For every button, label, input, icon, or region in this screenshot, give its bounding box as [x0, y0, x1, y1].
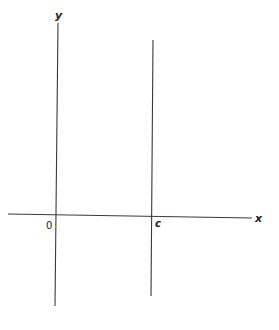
y-axis-label: y: [55, 9, 63, 22]
vertical-line-c: [151, 40, 153, 296]
coordinate-diagram: y x 0 c: [0, 0, 279, 330]
x-axis-label: x: [254, 212, 263, 225]
y-axis: [55, 23, 58, 306]
c-label: c: [155, 218, 161, 229]
origin-label: 0: [46, 220, 52, 231]
x-axis: [8, 214, 252, 218]
